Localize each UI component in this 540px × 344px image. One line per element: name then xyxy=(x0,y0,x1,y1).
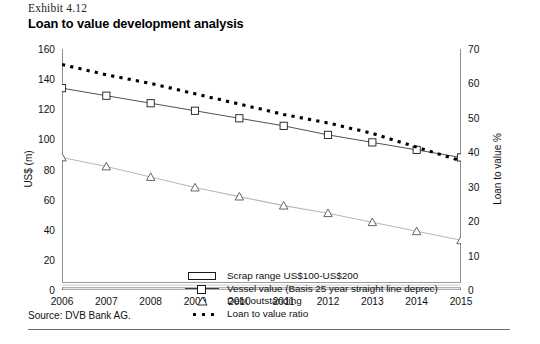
left-tick-label: 120 xyxy=(38,104,55,115)
series-vessel-value-basis-25-year-straight-line-deprec xyxy=(62,85,461,161)
source-note: Source: DVB Bank AG. xyxy=(28,310,131,321)
right-tick-label: 70 xyxy=(468,44,479,55)
right-axis-title: Loan to value % xyxy=(492,133,503,205)
x-tick-label: 2008 xyxy=(139,296,162,307)
left-tick-label: 20 xyxy=(44,254,55,265)
band-icon xyxy=(182,270,222,282)
legend-label: Loan to value ratio xyxy=(227,308,308,321)
left-tick-label: 140 xyxy=(38,74,55,85)
left-axis-title: US$ (m) xyxy=(23,150,34,187)
vessel-value-marker xyxy=(457,154,461,161)
vessel-value-marker xyxy=(147,100,154,107)
vessel-value-marker xyxy=(280,122,287,129)
right-tick-label: 40 xyxy=(468,147,479,158)
exhibit-label: Exhibit 4.12 xyxy=(28,2,87,14)
left-tick-label: 60 xyxy=(44,194,55,205)
figure-container: Exhibit 4.12 Loan to value development a… xyxy=(0,0,540,344)
left-tick-label: 80 xyxy=(44,164,55,175)
triangle-icon xyxy=(182,295,222,307)
vessel-value-marker xyxy=(236,115,243,122)
x-tick-label: 2015 xyxy=(450,296,473,307)
vessel-value-marker xyxy=(191,107,198,114)
chart-canvas xyxy=(62,49,461,290)
series-loan-to-value-ratio xyxy=(62,64,461,160)
legend-item-debt-outstanding: Debt outstanding xyxy=(182,295,438,308)
vessel-value-marker xyxy=(103,92,110,99)
legend-item-vessel-value: Vessel value (Basis 25 year straight lin… xyxy=(182,283,438,296)
right-tick-label: 0 xyxy=(468,285,474,296)
chart-legend: Scrap range US$100-US$200 Vessel value (… xyxy=(182,270,438,320)
right-tick-label: 60 xyxy=(468,78,479,89)
legend-item-scrap-range: Scrap range US$100-US$200 xyxy=(182,270,438,283)
vessel-value-marker xyxy=(62,85,66,92)
legend-item-loan-to-value-ratio: Loan to value ratio xyxy=(182,308,438,321)
right-tick-label: 20 xyxy=(468,216,479,227)
x-tick-label: 2006 xyxy=(51,296,74,307)
legend-label: Scrap range US$100-US$200 xyxy=(227,270,358,283)
vessel-value-marker xyxy=(369,139,376,146)
dotted-line-icon xyxy=(182,308,222,320)
line-square-icon xyxy=(182,283,222,295)
left-tick-label: 160 xyxy=(38,44,55,55)
right-tick-label: 50 xyxy=(468,112,479,123)
left-tick-label: 40 xyxy=(44,224,55,235)
x-tick-label: 2007 xyxy=(95,296,118,307)
right-tick-label: 10 xyxy=(468,250,479,261)
page-title: Loan to value development analysis xyxy=(28,16,244,31)
debt-outstanding-marker xyxy=(62,153,66,161)
vessel-value-line xyxy=(62,88,461,157)
vessel-value-marker xyxy=(324,131,331,138)
legend-label: Debt outstanding xyxy=(227,295,302,308)
left-tick-label: 0 xyxy=(49,285,55,296)
ratio-dotted-line xyxy=(62,64,461,160)
footer-rule xyxy=(28,329,510,330)
right-tick-label: 30 xyxy=(468,181,479,192)
plot-area: US$ (m) Loan to value % 0204060801001201… xyxy=(62,49,461,290)
legend-label: Vessel value (Basis 25 year straight lin… xyxy=(227,283,438,296)
series-debt-outstanding xyxy=(62,153,461,243)
debt-outstanding-line xyxy=(62,157,461,240)
left-tick-label: 100 xyxy=(38,134,55,145)
